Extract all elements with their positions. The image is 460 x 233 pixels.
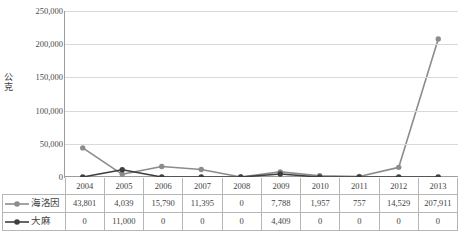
table-cell: 0 — [418, 213, 457, 231]
series-marker — [436, 36, 441, 41]
chart-figure: 公 克 250,000200,000150,000100,00050,0000 … — [0, 0, 460, 233]
gridline — [65, 144, 458, 145]
data-table-body: 2004200520062007200820092010201120122013… — [3, 178, 458, 231]
table-cell: 1,957 — [301, 195, 340, 213]
series-marker — [396, 165, 401, 170]
x-axis-tick-label: 2011 — [340, 178, 379, 195]
gridline — [65, 11, 458, 12]
table-cell: 0 — [144, 213, 183, 231]
series-marker — [159, 174, 164, 177]
y-axis-tick-label: 150,000 — [35, 73, 63, 82]
table-cell: 0 — [222, 213, 261, 231]
x-axis-tick-label: 2013 — [418, 178, 457, 195]
legend-item-label: 大麻 — [31, 213, 50, 230]
x-axis-tick-label: 2010 — [301, 178, 340, 195]
table-cell: 757 — [340, 195, 379, 213]
x-axis-tick-label: 2004 — [65, 178, 104, 195]
table-cell: 207,911 — [418, 195, 457, 213]
legend-item-label: 海洛因 — [31, 195, 60, 212]
legend-item[interactable]: 大麻 — [3, 213, 66, 231]
gridline — [65, 77, 458, 78]
table-row: 大麻011,0000004,4090000 — [3, 213, 458, 231]
series-line — [83, 39, 439, 177]
series-marker — [199, 167, 204, 172]
gridline — [65, 44, 458, 45]
legend-line-marker-icon — [4, 198, 30, 210]
table-cell: 11,395 — [183, 195, 222, 213]
table-row-years: 2004200520062007200820092010201120122013 — [3, 178, 458, 195]
table-cell: 0 — [183, 213, 222, 231]
table-cell: 43,801 — [65, 195, 104, 213]
y-axis-ticks: 250,000200,000150,000100,00050,0000 — [0, 0, 63, 180]
series-marker — [199, 174, 204, 177]
series-marker — [159, 164, 164, 169]
series-marker — [238, 174, 243, 177]
x-axis-tick-label: 2007 — [183, 178, 222, 195]
table-row: 海洛因43,8014,03915,79011,39507,7881,957757… — [3, 195, 458, 213]
series-marker — [278, 171, 283, 176]
x-axis-tick-label: 2008 — [222, 178, 261, 195]
x-axis-tick-label: 2012 — [379, 178, 418, 195]
table-cell: 0 — [340, 213, 379, 231]
table-cell: 4,409 — [261, 213, 300, 231]
y-axis-tick-label: 200,000 — [35, 40, 63, 49]
legend-item[interactable]: 海洛因 — [3, 195, 66, 213]
table-cell: 0 — [222, 195, 261, 213]
table-cell: 0 — [379, 213, 418, 231]
table-cell: 0 — [301, 213, 340, 231]
x-axis-tick-label: 2006 — [144, 178, 183, 195]
series-marker — [120, 167, 125, 172]
y-axis-tick-label: 100,000 — [35, 106, 63, 115]
x-axis-tick-label: 2009 — [261, 178, 300, 195]
series-marker — [120, 172, 125, 177]
legend-line-marker-icon — [4, 216, 30, 228]
table-cell: 11,000 — [104, 213, 143, 231]
series-marker — [80, 174, 85, 177]
series-lines — [65, 11, 458, 177]
series-marker — [396, 174, 401, 177]
table-cell: 4,039 — [104, 195, 143, 213]
y-axis-tick-label: 250,000 — [35, 7, 63, 16]
table-cell: 0 — [65, 213, 104, 231]
series-marker — [80, 145, 85, 150]
table-cell: 15,790 — [144, 195, 183, 213]
table-cell: 14,529 — [379, 195, 418, 213]
plot-area — [65, 11, 458, 177]
series-marker — [436, 174, 441, 177]
x-axis-tick-label: 2005 — [104, 178, 143, 195]
table-cell: 7,788 — [261, 195, 300, 213]
y-axis-tick-label: 50,000 — [40, 140, 63, 149]
gridline — [65, 111, 458, 112]
table-corner-cell — [3, 178, 66, 195]
data-table: 2004200520062007200820092010201120122013… — [2, 178, 458, 231]
